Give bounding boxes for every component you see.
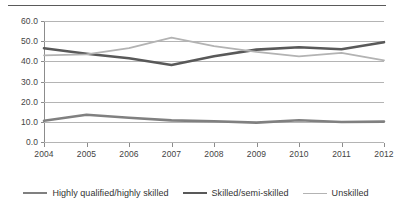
x-axis-tick [342, 143, 343, 147]
x-axis-ticks [44, 143, 384, 148]
x-axis-tick [299, 143, 300, 147]
x-tick-label: 2011 [332, 149, 351, 159]
x-tick-label: 2010 [289, 149, 308, 159]
x-tick-label: 2007 [162, 149, 181, 159]
legend-item[interactable]: Skilled/semi-skilled [183, 188, 289, 199]
legend-line-swatch [23, 192, 47, 194]
legend-label: Skilled/semi-skilled [212, 188, 289, 199]
y-tick-label: 60.0 [21, 17, 38, 26]
x-axis-tick [44, 143, 45, 147]
x-axis-tick [384, 143, 385, 147]
x-axis-labels: 200420052006200720082009201020112012 [44, 149, 384, 163]
x-tick-label: 2005 [77, 149, 96, 159]
y-tick-label: 50.0 [21, 37, 38, 46]
y-axis-labels: 0.010.020.030.040.050.060.0 [0, 12, 42, 160]
legend-item[interactable]: Unskilled [303, 188, 369, 199]
legend-line-swatch [303, 193, 327, 194]
x-axis-tick [172, 143, 173, 147]
legend-label: Highly qualified/highly skilled [52, 188, 168, 199]
x-tick-label: 2009 [247, 149, 266, 159]
series-plot-region [44, 21, 384, 142]
x-tick-label: 2006 [119, 149, 138, 159]
y-tick-label: 20.0 [21, 97, 38, 106]
chart-legend: Highly qualified/highly skilledSkilled/s… [0, 182, 392, 204]
series-lines [44, 21, 384, 142]
legend-line-swatch [183, 192, 207, 194]
y-tick-label: 30.0 [21, 77, 38, 86]
x-tick-label: 2012 [374, 149, 393, 159]
series-line [44, 115, 384, 123]
legend-item[interactable]: Highly qualified/highly skilled [23, 188, 168, 199]
x-tick-label: 2004 [34, 149, 53, 159]
x-axis-tick [257, 143, 258, 147]
legend-label: Unskilled [332, 188, 369, 199]
x-axis-tick [129, 143, 130, 147]
top-divider-rule [8, 5, 386, 6]
y-tick-label: 0.0 [26, 138, 38, 147]
x-axis-tick [87, 143, 88, 147]
x-tick-label: 2008 [204, 149, 223, 159]
y-tick-label: 40.0 [21, 57, 38, 66]
x-axis-tick [214, 143, 215, 147]
chart-plot-area: 0.010.020.030.040.050.060.0 200420052006… [0, 12, 392, 160]
y-tick-label: 10.0 [21, 117, 38, 126]
